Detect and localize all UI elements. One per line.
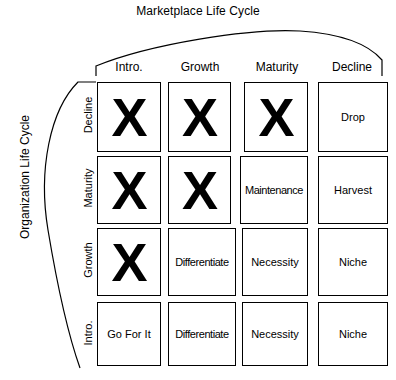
cell-label: Necessity xyxy=(250,256,300,268)
matrix-cell-maturity-maturity: Maintenance xyxy=(240,156,308,224)
row-header-slot-maturity: Maturity xyxy=(80,156,96,224)
row-header-slot-intro: Intro. xyxy=(80,302,96,368)
row-header-decline: Decline xyxy=(82,80,94,150)
matrix-cell-maturity-decline: Harvest xyxy=(318,156,388,224)
matrix-cell-decline-decline: Drop xyxy=(318,82,388,152)
left-axis-title: Organization Life Cycle xyxy=(18,107,32,247)
x-mark-icon: X xyxy=(182,163,217,217)
top-axis-title: Marketplace Life Cycle xyxy=(0,4,396,18)
row-header-maturity: Maturity xyxy=(82,153,94,223)
matrix-cell-growth-decline: Niche xyxy=(318,228,388,296)
matrix-cell-intro-intro: Go For It xyxy=(97,302,161,366)
x-mark-icon: X xyxy=(258,90,293,144)
matrix-cell-intro-growth: Differentiate xyxy=(168,302,236,366)
column-header-intro: Intro. xyxy=(97,58,161,76)
row-header-intro: Intro. xyxy=(82,298,94,368)
column-header-decline: Decline xyxy=(319,58,385,76)
matrix-cell-intro-maturity: Necessity xyxy=(242,302,308,366)
matrix-cell-intro-decline: Niche xyxy=(318,302,388,366)
column-header-growth: Growth xyxy=(168,58,232,76)
matrix-cell-growth-growth: Differentiate xyxy=(168,228,236,296)
matrix-cell-decline-maturity: X xyxy=(244,82,308,152)
matrix-cell-maturity-intro: X xyxy=(97,156,161,224)
x-mark-icon: X xyxy=(111,163,146,217)
strategy-matrix-diagram: Marketplace Life Cycle Organization Life… xyxy=(0,0,396,380)
x-mark-icon: X xyxy=(182,90,217,144)
matrix-cell-decline-intro: X xyxy=(97,82,161,152)
row-header-slot-decline: Decline xyxy=(80,82,96,152)
row-header-growth: Growth xyxy=(82,225,94,295)
cell-label: Niche xyxy=(338,256,368,268)
x-mark-icon: X xyxy=(111,90,146,144)
matrix-cell-maturity-growth: X xyxy=(168,156,231,224)
cell-label: Differentiate xyxy=(174,328,229,340)
x-mark-icon: X xyxy=(111,235,146,289)
cell-label: Harvest xyxy=(333,184,373,196)
column-header-row: Intro. Growth Maturity Decline xyxy=(97,58,388,78)
matrix-cell-growth-intro: X xyxy=(97,228,161,296)
matrix-cell-decline-growth: X xyxy=(168,82,231,152)
cell-label: Maintenance xyxy=(244,184,304,196)
cell-label: Necessity xyxy=(250,328,300,340)
cell-label: Niche xyxy=(338,328,368,340)
cell-label: Differentiate xyxy=(174,256,229,268)
row-header-slot-growth: Growth xyxy=(80,228,96,296)
matrix-cell-growth-maturity: Necessity xyxy=(242,228,308,296)
cell-label: Drop xyxy=(340,111,366,123)
cell-label: Go For It xyxy=(106,328,151,340)
column-header-maturity: Maturity xyxy=(244,58,310,76)
